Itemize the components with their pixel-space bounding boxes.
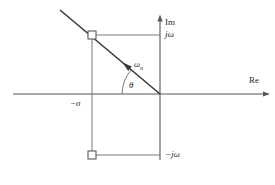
- diagram-canvas: [0, 0, 275, 185]
- real-axis-label: Re: [249, 76, 259, 85]
- axis-group: [13, 15, 270, 161]
- imaginary-axis-label: Im: [165, 18, 175, 27]
- jomega-negative-label: −jω: [165, 150, 180, 159]
- omega-n-subscript: n: [140, 65, 143, 71]
- sigma-negative-label: −σ: [70, 99, 81, 108]
- radial-vector-group: [60, 10, 160, 94]
- theta-label: θ: [129, 81, 133, 90]
- construction-line-group: [92, 35, 160, 155]
- radial-vector-omega-n: [60, 10, 160, 94]
- jomega-positive-label: jω: [165, 30, 174, 39]
- imaginary-axis-arrowhead: [157, 15, 162, 22]
- lower-pole-marker: [88, 151, 96, 159]
- omega-n-label: ωn: [134, 60, 143, 71]
- upper-pole-marker: [88, 31, 96, 39]
- real-axis-arrowhead: [263, 91, 270, 96]
- pole-zero-diagram: Im Re jω −jω −σ ωn θ: [0, 0, 275, 185]
